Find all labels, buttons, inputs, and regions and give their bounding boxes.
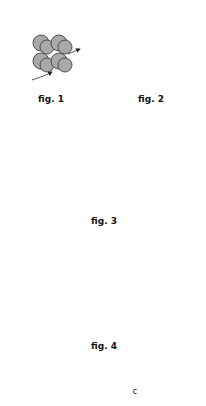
fig5-annotation: c: [130, 387, 140, 396]
fig2-label: fig. 2: [126, 94, 176, 104]
fig4-label: fig. 4: [79, 341, 129, 351]
fig3-label: fig. 3: [79, 216, 129, 226]
fig1-diagram: [32, 35, 80, 80]
fig1-label: fig. 1: [26, 94, 76, 104]
